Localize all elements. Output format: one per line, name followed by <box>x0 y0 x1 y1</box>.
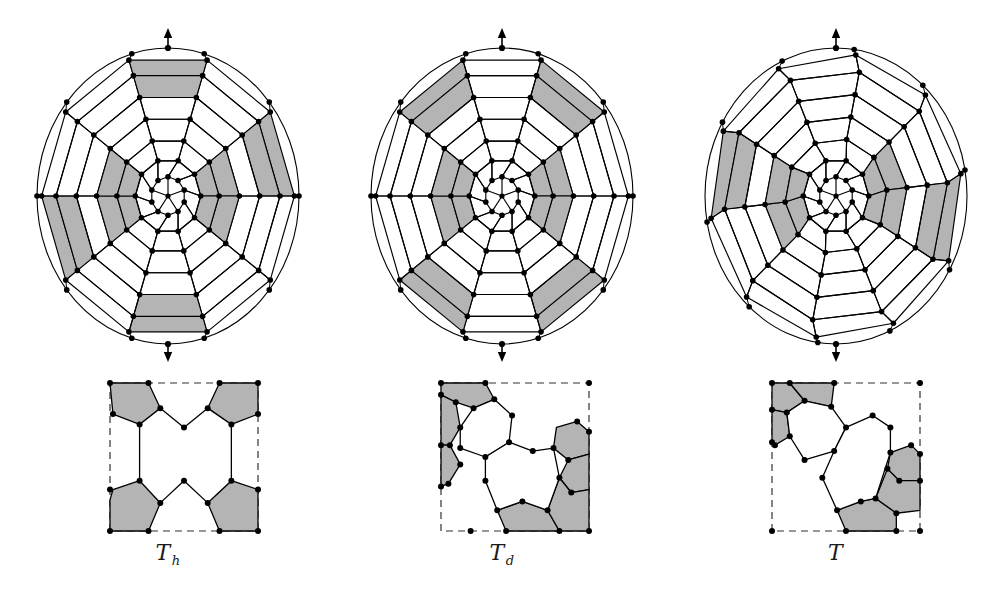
graph-vertex <box>807 171 813 177</box>
graph-vertex <box>862 267 868 273</box>
open-face <box>463 316 541 331</box>
graph-vertex <box>228 478 234 484</box>
graph-vertex <box>771 153 777 159</box>
graph-vertex <box>482 454 488 460</box>
graph-vertex <box>802 398 808 404</box>
graph-vertex <box>893 510 899 516</box>
graph-vertex <box>772 442 778 448</box>
graph-vertex <box>187 270 193 276</box>
graph-vertex <box>515 248 521 254</box>
graph-vertex <box>499 341 505 347</box>
graph-vertex <box>107 487 113 493</box>
graph-vertex <box>879 309 885 315</box>
caption-th: Th <box>1 540 335 568</box>
graph-vertex <box>165 341 171 347</box>
open-face <box>152 141 184 161</box>
graph-vertex <box>107 528 113 534</box>
domain-t <box>769 380 923 534</box>
graph-vertex <box>746 304 752 310</box>
graph-vertex <box>91 254 97 260</box>
graph-vertex <box>482 478 488 484</box>
graph-vertex <box>175 228 181 234</box>
graph-vertex <box>843 158 849 164</box>
graph-vertex <box>930 256 936 262</box>
graph-vertex <box>463 335 469 341</box>
graph-vertex <box>545 507 551 513</box>
graph-vertex <box>445 481 451 487</box>
caption-td: Td <box>335 540 669 568</box>
graph-vertex <box>216 193 222 199</box>
graph-vertex <box>833 212 839 218</box>
graph-vertex <box>780 247 786 253</box>
graph-vertex <box>255 411 261 417</box>
graph-vertex <box>509 178 515 184</box>
graph-vertex <box>277 193 283 199</box>
graph-vertex <box>139 171 145 177</box>
graph-vertex <box>483 187 489 193</box>
open-face <box>142 212 169 232</box>
graph-vertex <box>887 328 893 334</box>
graph-vertex <box>787 380 793 386</box>
graph-vertex <box>908 442 914 448</box>
graph-vertex <box>181 199 187 205</box>
graph-vertex <box>477 116 483 122</box>
graph-vertex <box>843 424 849 430</box>
graph-vertex <box>165 212 171 218</box>
graph-vertex <box>255 528 261 534</box>
graph-vertex <box>448 193 454 199</box>
graph-vertex <box>819 475 825 481</box>
graph-vertex <box>409 119 415 125</box>
open-face <box>810 212 837 232</box>
open-face <box>855 72 919 126</box>
graph-vertex <box>499 45 505 51</box>
graph-vertex <box>532 193 538 199</box>
graph-vertex <box>126 329 132 335</box>
graph-vertex <box>207 159 213 165</box>
graph-vertex <box>917 478 923 484</box>
graph-vertex <box>565 457 571 463</box>
graph-vertex <box>852 92 858 98</box>
graph-vertex <box>397 109 403 115</box>
graph-vertex <box>887 424 893 430</box>
graph-vertex <box>831 448 837 454</box>
graph-vertex <box>535 335 541 341</box>
graph-vertex <box>255 487 261 493</box>
graph-vertex <box>534 314 540 320</box>
graph-vertex <box>155 178 161 184</box>
graph-vertex <box>256 268 262 274</box>
graph-vertex <box>157 405 163 411</box>
graph-vertex <box>913 245 919 251</box>
graph-vertex <box>856 69 862 75</box>
graph-vertex <box>924 182 930 188</box>
shaded-face <box>129 60 207 75</box>
graph-vertex <box>74 193 80 199</box>
graph-vertex <box>887 450 893 456</box>
graph-vertex <box>854 246 860 252</box>
graph-vertex <box>425 132 431 138</box>
graph-vertex <box>917 528 923 534</box>
graph-vertex <box>823 228 829 234</box>
graph-vertex <box>483 199 489 205</box>
graph-vertex <box>823 178 829 184</box>
shaded-face <box>133 76 202 98</box>
graph-vertex <box>541 227 547 233</box>
graph-vertex <box>205 500 211 506</box>
graph-vertex <box>457 445 463 451</box>
graph-vertex <box>823 158 829 164</box>
graph-vertex <box>438 484 444 490</box>
graph-vertex <box>814 295 820 301</box>
open-face <box>467 295 536 317</box>
open-face <box>467 76 536 98</box>
graph-vertex <box>858 498 864 504</box>
graph-vertex <box>754 141 760 147</box>
open-face <box>813 291 882 320</box>
graph-vertex <box>833 45 839 51</box>
graph-vertex <box>722 206 728 212</box>
graph-vertex <box>181 248 187 254</box>
graph-vertex <box>515 199 521 205</box>
graph-vertex <box>165 174 171 180</box>
graph-vertex <box>131 314 137 320</box>
graph-vertex <box>557 146 563 152</box>
graph-vertex <box>149 138 155 144</box>
graph-vertex <box>947 267 953 273</box>
